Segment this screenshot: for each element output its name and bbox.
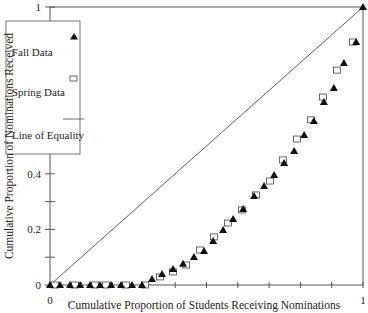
spring-data-point [334, 67, 341, 73]
fall-data-point [148, 275, 156, 282]
legend-square-icon [70, 76, 77, 81]
fall-data-point [300, 131, 308, 138]
x-axis-title: Cumulative Proportion of Students Receiv… [68, 299, 341, 312]
y-tick-label: 0.2 [27, 223, 41, 235]
lorenz-chart: 00.20.40.60.8101 Fall Data Spring Data L… [0, 0, 368, 313]
fall-data-point [290, 147, 298, 154]
fall-data-point [340, 59, 348, 66]
fall-data-point [219, 226, 227, 233]
x-tick-label: 0 [47, 294, 53, 306]
fall-data-point [158, 270, 166, 277]
legend-label-spring: Spring Data [12, 86, 65, 98]
fall-data-point [359, 3, 367, 10]
y-tick-label: 0 [36, 279, 42, 291]
y-axis-title: Cumulative Proportion of Nominations Rec… [3, 33, 16, 259]
y-tick-label: 1 [36, 1, 42, 13]
legend: Fall Data Spring Data Line of Equality [6, 21, 85, 154]
spring-data-point [319, 94, 326, 100]
fall-data-point [330, 84, 338, 91]
spring-data-point [267, 178, 274, 184]
fall-data-point [270, 171, 278, 178]
fall-data-point [229, 215, 237, 222]
legend-label-fall: Fall Data [12, 46, 53, 58]
spring-data-point [293, 136, 300, 142]
fall-data-point [190, 253, 198, 260]
fall-data-point [169, 265, 177, 272]
line-of-equality [50, 7, 363, 285]
y-tick-label: 0.4 [27, 168, 41, 180]
x-tick-label: 1 [360, 294, 366, 306]
legend-label-equality: Line of Equality [12, 129, 85, 141]
